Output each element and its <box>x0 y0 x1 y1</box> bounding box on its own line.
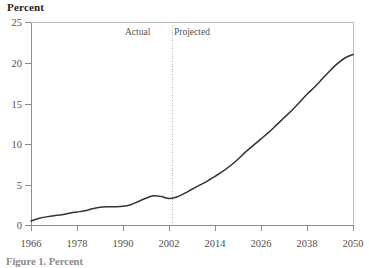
data-series-line <box>31 54 353 220</box>
annotation-projected: Projected <box>174 27 210 38</box>
x-axis-ticks <box>31 225 353 231</box>
y-tick-label-5: 5 <box>0 180 22 191</box>
y-tick-label-10: 10 <box>0 139 22 150</box>
x-tick-label-1978: 1978 <box>54 238 100 249</box>
y-tick-label-0: 0 <box>0 220 22 231</box>
y-tick-label-15: 15 <box>0 99 22 110</box>
y-axis-ticks <box>25 22 31 225</box>
figure-caption: Figure 1. Percent <box>6 256 83 268</box>
x-tick-label-2026: 2026 <box>238 238 284 249</box>
chart-axes <box>31 22 353 225</box>
annotation-actual: Actual <box>125 27 150 38</box>
x-tick-label-2002: 2002 <box>146 238 192 249</box>
y-tick-label-25: 25 <box>0 17 22 28</box>
x-tick-label-1990: 1990 <box>100 238 146 249</box>
x-tick-label-1966: 1966 <box>8 238 54 249</box>
x-tick-label-2038: 2038 <box>284 238 330 249</box>
x-tick-label-2014: 2014 <box>192 238 238 249</box>
x-tick-label-2050: 2050 <box>330 238 369 249</box>
y-tick-label-20: 20 <box>0 58 22 69</box>
